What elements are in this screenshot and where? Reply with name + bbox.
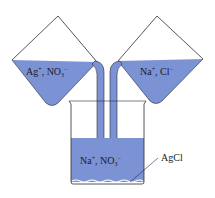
left-flask <box>12 16 104 148</box>
beaker-label: Na+, NO3− <box>80 155 121 167</box>
ion-silver: Ag <box>26 66 38 77</box>
diagram-canvas <box>0 0 215 198</box>
subscript: 3 <box>61 72 64 78</box>
charge: − <box>118 155 121 161</box>
right-flask-label: Na+, Cl− <box>140 66 173 77</box>
precipitate-label: AgCl <box>161 153 183 163</box>
ion-nitrate: NO <box>47 66 61 77</box>
ion-sodium: Na <box>140 66 152 77</box>
charge: − <box>170 66 173 72</box>
left-flask-label: Ag+, NO3− <box>26 66 67 78</box>
charge: − <box>64 66 67 72</box>
subscript: 3 <box>115 161 118 167</box>
right-flask <box>110 16 203 148</box>
ion-nitrate: NO <box>100 155 114 166</box>
ion-sodium: Na <box>80 155 92 166</box>
ion-chloride: Cl <box>160 66 169 77</box>
